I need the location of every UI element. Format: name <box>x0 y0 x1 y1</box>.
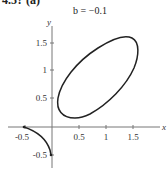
x-tick-label: -0.5 <box>15 132 30 142</box>
y-tick-label: 0.5 <box>36 93 48 103</box>
x-tick-label: 1.5 <box>127 132 139 142</box>
y-tick-label: -0.5 <box>33 150 48 160</box>
phase-plot: b = −0.1 x y -0.5 0.5 1 1.5 1.5 1 0.5 -0… <box>0 0 168 171</box>
y-axis-label: y <box>46 17 51 27</box>
equilibrium-point <box>23 126 26 129</box>
y-tick-label: 1.5 <box>36 38 48 48</box>
closed-orbit-curve <box>58 37 138 118</box>
equilibrium-point <box>50 154 53 157</box>
x-tick-label: 0.5 <box>73 132 85 142</box>
x-tick-label: 1 <box>104 132 109 142</box>
chart-title: b = −0.1 <box>73 5 107 16</box>
x-axis-label: x <box>161 122 166 132</box>
y-tick-label: 1 <box>43 65 48 75</box>
